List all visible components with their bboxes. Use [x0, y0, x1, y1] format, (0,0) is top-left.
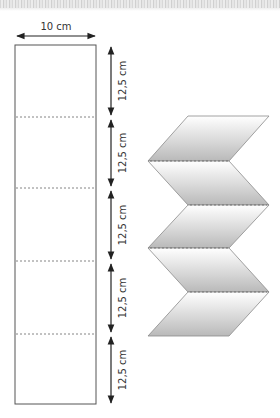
- segment-dimension-5: 12,5 cm: [111, 337, 128, 403]
- strip-outline: [15, 45, 96, 404]
- segment-label-4: 12,5 cm: [117, 278, 128, 319]
- segment-label-2: 12,5 cm: [117, 133, 128, 174]
- segment-dimension-4: 12,5 cm: [111, 264, 128, 332]
- zigzag-panel-2: [148, 161, 269, 205]
- width-dimension: 10 cm: [17, 21, 95, 36]
- zigzag-panel-4: [148, 248, 269, 292]
- zigzag-panel-5: [148, 292, 269, 336]
- paper-strip: [15, 45, 96, 404]
- zigzag-panel-3: [148, 205, 269, 248]
- width-label: 10 cm: [40, 21, 71, 32]
- zigzag-panel-1: [148, 116, 269, 161]
- segment-label-3: 12,5 cm: [117, 205, 128, 246]
- segment-label-1: 12,5 cm: [117, 61, 128, 102]
- paper-strip-diagram: 10 cm 12,5 cm 12,5 cm 12,5 cm 12,5 cm 12…: [0, 0, 280, 418]
- segment-dimensions: 12,5 cm 12,5 cm 12,5 cm 12,5 cm 12,5 cm: [111, 47, 128, 403]
- segment-dimension-3: 12,5 cm: [111, 191, 128, 259]
- segment-dimension-1: 12,5 cm: [111, 47, 128, 115]
- segment-dimension-2: 12,5 cm: [111, 120, 128, 186]
- folded-zigzag: [148, 116, 269, 336]
- segment-label-5: 12,5 cm: [117, 350, 128, 391]
